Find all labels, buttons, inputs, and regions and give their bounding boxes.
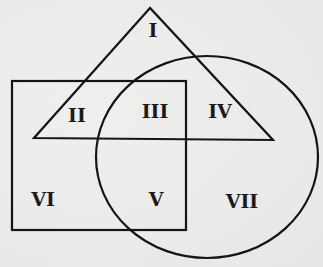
region-label-vi: VI <box>30 188 55 210</box>
region-label-v: V <box>148 188 165 210</box>
region-label-i: I <box>149 19 158 41</box>
region-label-ii: II <box>68 104 86 126</box>
venn-diagram: I II III IV V VI VII <box>0 0 323 267</box>
region-label-iv: IV <box>208 100 233 122</box>
region-label-iii: III <box>142 100 169 122</box>
circle-shape <box>96 56 318 258</box>
diagram-svg: I II III IV V VI VII <box>0 0 323 267</box>
region-label-vii: VII <box>225 190 259 212</box>
